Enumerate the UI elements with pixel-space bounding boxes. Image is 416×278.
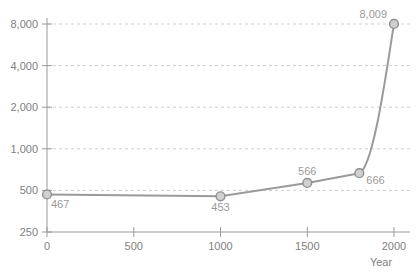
- data-point-marker[interactable]: [303, 179, 312, 188]
- data-point-marker[interactable]: [216, 192, 225, 201]
- data-point-label: 467: [51, 198, 69, 210]
- y-tick-label-250: 250: [20, 226, 38, 238]
- gridlines: [47, 24, 410, 190]
- data-series: 4674535666668,009: [43, 8, 399, 213]
- y-tick-label-1000: 1,000: [10, 143, 38, 155]
- series-point-labels: 4674535666668,009: [51, 8, 387, 213]
- x-axis: 0 500 1000 1500 2000 Year: [44, 227, 410, 268]
- y-tick-label-8000: 8,000: [10, 18, 38, 30]
- series-line-population: [47, 24, 394, 196]
- x-tick-label-2000: 2000: [382, 240, 406, 252]
- data-point-label: 8,009: [359, 8, 387, 20]
- data-point-marker[interactable]: [355, 169, 364, 178]
- x-tick-label-1500: 1500: [295, 240, 319, 252]
- line-chart: 8,000 4,000 2,000 1,000 500 250 0 500 10…: [0, 0, 416, 278]
- series-markers: [43, 20, 399, 201]
- y-tick-label-4000: 4,000: [10, 60, 38, 72]
- data-point-marker[interactable]: [390, 20, 399, 29]
- data-point-label: 453: [211, 201, 229, 213]
- y-axis: 8,000 4,000 2,000 1,000 500 250: [10, 18, 52, 238]
- y-tick-label-2000: 2,000: [10, 101, 38, 113]
- data-point-label: 566: [298, 165, 316, 177]
- data-point-label: 666: [366, 174, 384, 186]
- x-axis-title: Year: [370, 256, 393, 268]
- x-tick-label-0: 0: [44, 240, 50, 252]
- chart-plot-area: 8,000 4,000 2,000 1,000 500 250 0 500 10…: [0, 0, 416, 278]
- x-tick-label-1000: 1000: [208, 240, 232, 252]
- x-tick-label-500: 500: [125, 240, 143, 252]
- y-tick-label-500: 500: [20, 184, 38, 196]
